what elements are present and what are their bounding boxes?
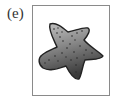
- starfish-body: [39, 24, 103, 80]
- starfish-icon: [0, 0, 118, 102]
